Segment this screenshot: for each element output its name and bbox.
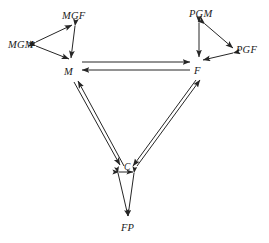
node-label-pgm: PGM [189, 9, 212, 20]
edge-m-f [82, 62, 190, 70]
node-label-c: C [124, 163, 131, 173]
edge-pgf-f [203, 53, 233, 60]
node-label-m: M [64, 67, 73, 78]
node-label-f: F [194, 66, 201, 77]
edge-mgm-mgf [36, 25, 72, 42]
node-label-mgm: MGM [8, 40, 34, 51]
node-label-mgf: MGF [62, 11, 85, 22]
node-label-fp: FP [121, 223, 134, 234]
edge-m-c [74, 81, 124, 166]
node-label-pgf: PGF [236, 45, 257, 56]
kinship-diagram: MGM MGF M PGM PGF F C FP [0, 0, 269, 243]
edge-c-fp [118, 172, 134, 216]
edge-f-c [133, 80, 200, 166]
diagram-canvas [0, 0, 269, 243]
edge-pgm-pgf [205, 24, 233, 48]
edge-mgm-m [36, 46, 69, 59]
edge-mgf-m [71, 26, 75, 58]
